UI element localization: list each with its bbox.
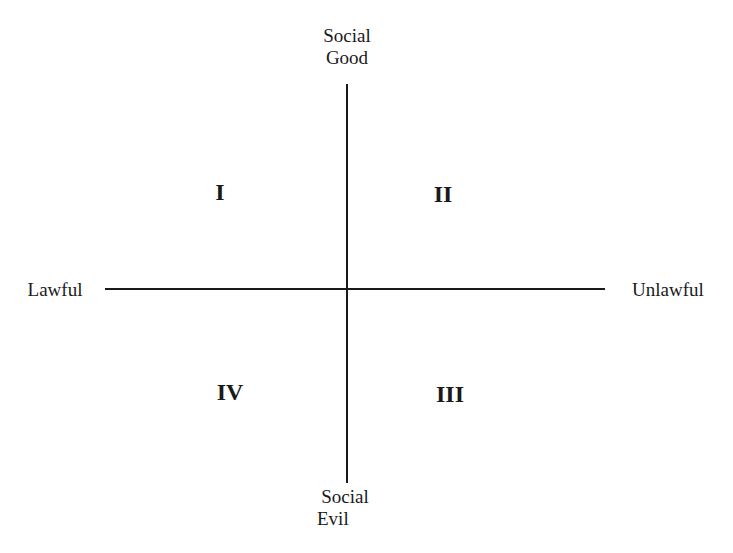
top-axis-label: Social Good: [297, 25, 397, 69]
quadrant-label-i: I: [195, 178, 245, 206]
bottom-axis-label: Social Evil: [295, 486, 395, 530]
bottom-axis-label-line2: Evil: [295, 508, 395, 530]
quadrant-label-ii: II: [418, 180, 468, 208]
right-axis-label: Unlawful: [612, 279, 724, 301]
top-axis-label-line2: Good: [297, 47, 397, 69]
bottom-axis-label-line1: Social: [295, 486, 395, 508]
horizontal-axis-line: [105, 288, 605, 290]
top-axis-label-line1: Social: [297, 25, 397, 47]
quadrant-label-iii: III: [420, 380, 480, 408]
vertical-axis-line: [346, 84, 348, 483]
left-axis-label: Lawful: [10, 279, 100, 301]
quadrant-label-iv: IV: [200, 378, 260, 406]
